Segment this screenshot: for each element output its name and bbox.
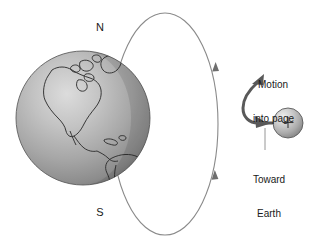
physics-diagram-canvas: N S Motion into page Toward Earth [0,0,319,247]
field-line-arrowhead-upper [212,62,219,72]
toward-earth-label-line2: Earth [239,208,299,219]
south-pole-label: S [0,206,200,218]
motion-into-page-label: Motion into page [258,57,294,147]
toward-earth-label: Toward Earth [239,152,299,242]
earth-globe-group [16,51,150,217]
motion-into-page-label-line2: into page [253,113,294,124]
toward-earth-label-line1: Toward [239,174,299,185]
north-pole-label: N [0,21,200,33]
motion-into-page-label-line1: Motion [258,79,294,90]
